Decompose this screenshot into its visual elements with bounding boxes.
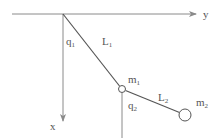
angle-q1-label: q1	[66, 35, 76, 49]
double-pendulum-diagram: y x q1 L1 m1 q2 L2 m2	[0, 0, 219, 138]
x-axis-label: x	[50, 120, 56, 132]
mass-2	[179, 109, 191, 121]
mass-1	[119, 86, 126, 93]
link-L1-label: L1	[102, 35, 113, 49]
angle-q2-label: q2	[128, 99, 138, 113]
y-axis-label: y	[203, 8, 209, 20]
link-L2-label: L2	[158, 91, 169, 105]
mass-m1-label: m1	[128, 73, 141, 87]
mass-m2-label: m2	[196, 96, 209, 110]
link-1	[63, 14, 120, 86]
